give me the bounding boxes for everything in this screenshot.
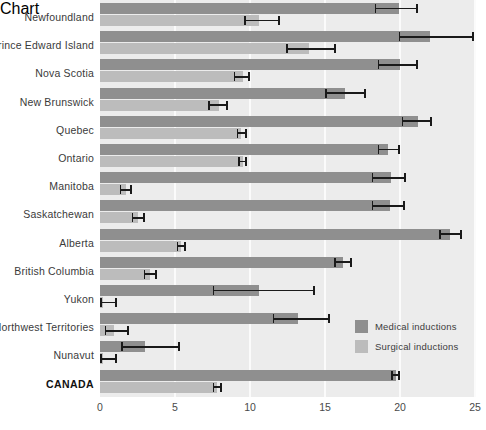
category-label: Nunavut — [53, 350, 94, 361]
chart-row: Quebec — [0, 116, 486, 144]
error-bar-surgical — [105, 330, 129, 332]
error-cap-high — [472, 32, 474, 41]
error-cap-low — [399, 32, 401, 41]
error-bar-medical — [213, 290, 315, 292]
error-cap-low — [286, 44, 288, 53]
error-cap-low — [244, 16, 246, 25]
bar-surgical — [100, 382, 217, 393]
error-bar-medical — [399, 36, 474, 38]
error-cap-low — [402, 117, 404, 126]
error-cap-high — [127, 326, 129, 335]
error-cap-high — [278, 16, 280, 25]
x-tick-25: 25 — [469, 401, 481, 413]
error-cap-low — [375, 4, 377, 13]
error-cap-low — [439, 230, 441, 239]
error-cap-high — [245, 129, 247, 138]
error-bar-medical — [372, 177, 407, 179]
error-cap-high — [398, 371, 400, 380]
x-tick-5: 5 — [172, 401, 178, 413]
induction-rates-bar-chart: NewfoundlandPrince Edward IslandNova Sco… — [0, 0, 486, 430]
bar-medical — [100, 144, 388, 155]
chart-row: Saskatchewan — [0, 200, 486, 228]
error-bar-medical — [378, 64, 419, 66]
category-label: Manitoba — [49, 181, 94, 192]
error-bar-medical — [334, 261, 352, 263]
category-label: Northwest Territories — [0, 322, 94, 333]
category-label: Newfoundland — [24, 12, 94, 23]
error-cap-high — [226, 101, 228, 110]
error-cap-high — [184, 242, 186, 251]
error-bar-surgical — [132, 217, 146, 219]
error-cap-high — [220, 383, 222, 392]
error-cap-high — [430, 117, 432, 126]
error-bar-medical — [402, 120, 432, 122]
error-cap-high — [130, 185, 132, 194]
error-cap-high — [460, 230, 462, 239]
error-cap-low — [334, 258, 336, 267]
error-cap-low — [372, 201, 374, 210]
legend-swatch-medical-icon — [355, 320, 368, 333]
chart-row: British Columbia — [0, 257, 486, 285]
chart-row: Manitoba — [0, 172, 486, 200]
bar-surgical — [100, 269, 150, 280]
bar-medical — [100, 313, 298, 324]
error-bar-surgical — [144, 273, 158, 275]
category-label: Alberta — [59, 238, 94, 249]
error-cap-low — [213, 286, 215, 295]
category-label: New Brunswick — [20, 97, 94, 108]
error-bar-medical — [439, 233, 462, 235]
category-label: Prince Edward Island — [0, 40, 94, 51]
x-tick-20: 20 — [394, 401, 406, 413]
error-bar-surgical — [238, 161, 247, 163]
error-cap-low — [120, 185, 122, 194]
chart-row: Yukon — [0, 285, 486, 313]
error-cap-high — [334, 44, 336, 53]
error-bar-surgical — [213, 386, 222, 388]
error-cap-high — [416, 60, 418, 69]
category-label: CANADA — [46, 379, 94, 390]
legend-item-surgical: Surgical inductions — [355, 340, 459, 353]
chart-row: Newfoundland — [0, 3, 486, 31]
error-cap-high — [364, 89, 366, 98]
error-bar-medical — [375, 8, 419, 10]
error-cap-high — [403, 201, 405, 210]
error-cap-high — [350, 258, 352, 267]
bar-surgical — [100, 128, 241, 139]
error-cap-low — [273, 314, 275, 323]
bar-medical — [100, 172, 391, 183]
error-cap-low — [378, 60, 380, 69]
error-bar-medical — [273, 318, 330, 320]
category-label: Yukon — [64, 294, 94, 305]
bar-medical — [100, 3, 399, 14]
error-cap-high — [398, 145, 400, 154]
error-cap-high — [115, 298, 117, 307]
error-cap-low — [213, 383, 215, 392]
category-label: British Columbia — [14, 266, 94, 277]
bar-medical — [100, 116, 418, 127]
error-bar-surgical — [286, 48, 336, 50]
error-cap-high — [416, 4, 418, 13]
chart-row: Alberta — [0, 229, 486, 257]
legend-swatch-surgical-icon — [355, 340, 368, 353]
error-cap-high — [155, 270, 157, 279]
error-cap-high — [404, 173, 406, 182]
legend-item-medical: Medical inductions — [355, 320, 459, 333]
error-bar-surgical — [120, 189, 132, 191]
bar-medical — [100, 229, 450, 240]
bar-surgical — [100, 71, 243, 82]
bar-surgical — [100, 15, 259, 26]
error-cap-low — [132, 213, 134, 222]
error-cap-low — [177, 242, 179, 251]
bar-medical — [100, 88, 345, 99]
error-cap-low — [121, 342, 123, 351]
error-bar-surgical — [177, 245, 186, 247]
chart-row: Nova Scotia — [0, 59, 486, 87]
error-cap-low — [100, 354, 102, 363]
legend-label-medical: Medical inductions — [375, 321, 457, 332]
error-bar-surgical — [244, 20, 280, 22]
error-bar-medical — [325, 92, 366, 94]
category-label: Quebec — [56, 125, 94, 136]
error-cap-low — [378, 145, 380, 154]
error-cap-low — [105, 326, 107, 335]
error-bar-surgical — [237, 132, 248, 134]
